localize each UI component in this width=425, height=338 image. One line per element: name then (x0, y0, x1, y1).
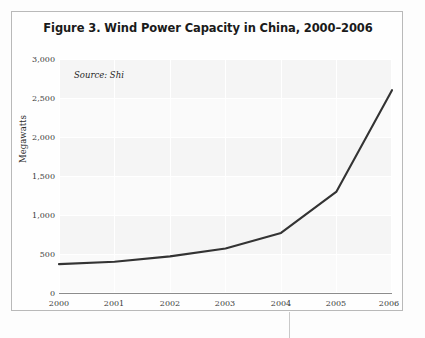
line-series-wind-capacity (59, 90, 392, 264)
figure-frame: Figure 3. Wind Power Capacity in China, … (11, 11, 403, 311)
figure-container: Figure 3. Wind Power Capacity in China, … (0, 0, 425, 338)
series-plot (12, 12, 404, 312)
page-fold-artifact (289, 312, 290, 338)
